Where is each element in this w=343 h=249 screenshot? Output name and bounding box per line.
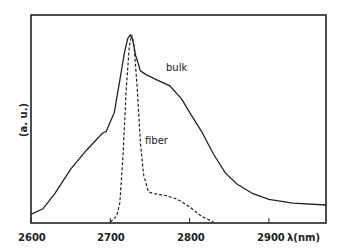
x-tick-label: 2800 (177, 232, 205, 243)
x-tick-label: 2600 (18, 232, 46, 243)
bulk-annotation: bulk (166, 62, 187, 73)
fiber-annotation: fiber (145, 135, 169, 146)
y-axis-label: (a. u.) (18, 103, 29, 137)
spectrum-chart: 2600 2700 2800 2900 λ(nm) (a. u.) bulk f… (0, 0, 343, 249)
x-axis-unit-label: λ(nm) (287, 232, 320, 243)
x-tick-label: 2700 (97, 232, 125, 243)
fiber-series-line (110, 35, 213, 222)
plot-frame (31, 15, 326, 223)
x-tick-label: 2900 (257, 232, 285, 243)
